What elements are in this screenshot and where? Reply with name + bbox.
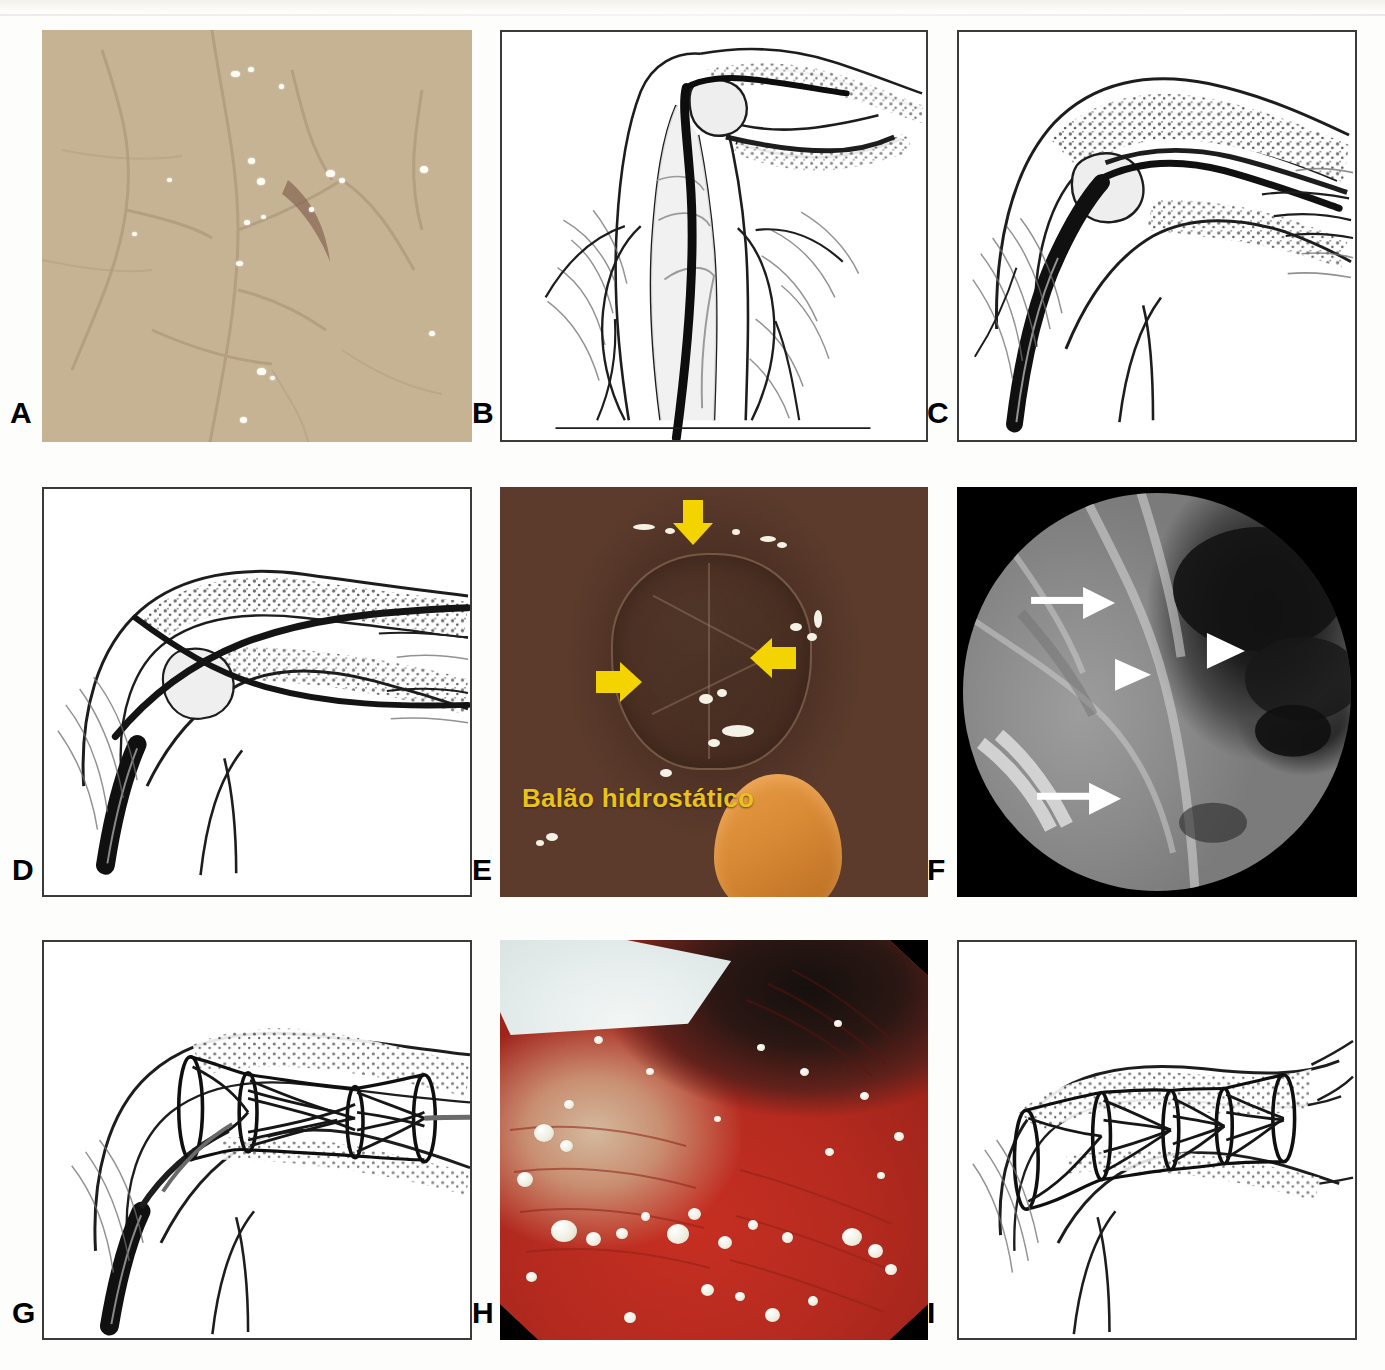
light-reflections (42, 30, 472, 442)
panel-label-e: E (472, 855, 492, 885)
panel-e-image: Balão hidrostático (500, 487, 928, 897)
figure-panel-grid: A (0, 0, 1385, 1370)
arrow-right-icon-lower (1037, 783, 1121, 815)
panel-label-g: G (12, 1298, 35, 1328)
panel-label-a: A (10, 398, 32, 428)
annotation-arrows (500, 487, 928, 897)
panel-b-illustration (500, 30, 928, 442)
panel-i: I (957, 940, 1357, 1340)
panel-d: D (42, 487, 472, 897)
panel-h: H (500, 940, 928, 1340)
fluoro-markers (963, 493, 1351, 891)
panel-label-d: D (12, 855, 34, 885)
panel-label-f: F (927, 855, 945, 885)
panel-e: Balão hidrostático E (500, 487, 928, 897)
arrow-right-icon (596, 662, 642, 702)
panel-f-image (957, 487, 1357, 897)
arrow-left-icon (750, 638, 796, 678)
arrow-down-icon (673, 500, 713, 545)
panel-f: F (957, 487, 1357, 897)
panel-label-i: I (927, 1298, 935, 1328)
balloon-annotation-label: Balão hidrostático (522, 783, 754, 814)
panel-b: B (500, 30, 928, 442)
arrowhead-icon-left (1115, 659, 1151, 691)
panel-d-illustration (42, 487, 472, 897)
panel-h-image (500, 940, 928, 1340)
panel-label-b: B (472, 398, 494, 428)
arrowhead-icon-right (1207, 633, 1245, 669)
panel-g-illustration (42, 940, 472, 1340)
panel-i-illustration (957, 940, 1357, 1340)
panel-g: G (42, 940, 472, 1340)
arrow-right-icon-upper (1031, 587, 1115, 619)
fluoroscopy-field (963, 493, 1351, 891)
panel-label-c: C (927, 398, 949, 428)
panel-c: C (957, 30, 1357, 442)
panel-label-h: H (472, 1298, 494, 1328)
panel-a: A (42, 30, 472, 442)
panel-c-illustration (957, 30, 1357, 442)
panel-a-image (42, 30, 472, 442)
